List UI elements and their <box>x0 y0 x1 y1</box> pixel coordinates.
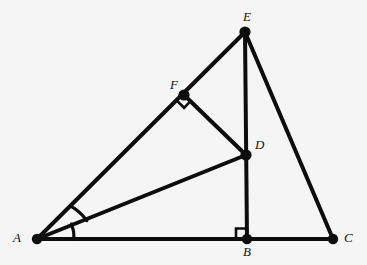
vertex-label-A: A <box>13 231 21 244</box>
vertex-label-E: E <box>243 10 251 23</box>
vertex-dot-B <box>242 234 252 244</box>
vertex-dot-C <box>328 234 338 244</box>
vertex-label-B: B <box>243 245 251 258</box>
vertex-label-D: D <box>255 138 264 151</box>
vertex-label-C: C <box>344 231 353 244</box>
vertex-dot-E <box>239 26 250 37</box>
segment-EB <box>245 32 247 239</box>
vertex-dot-F <box>178 89 189 100</box>
vertex-label-F: F <box>170 78 178 91</box>
geometry-figure: E F D A B C <box>0 0 367 265</box>
vertex-dot-A <box>32 234 42 244</box>
geometry-canvas <box>0 0 367 265</box>
figure-background <box>0 0 367 265</box>
vertex-dot-D <box>240 149 251 160</box>
